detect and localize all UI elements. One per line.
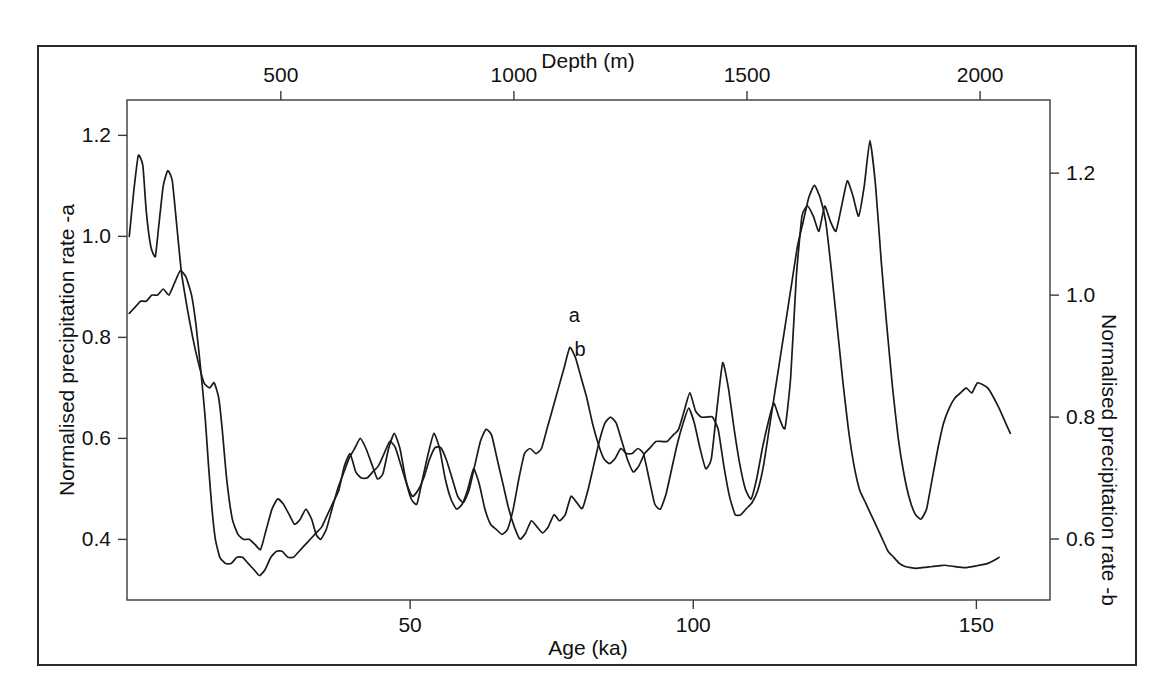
plot-frame: [127, 100, 1050, 600]
curve-b: [129, 185, 999, 575]
curve-a: [129, 140, 1010, 549]
top-tick-label-500: 500: [263, 63, 298, 86]
right-tick-label-1.2: 1.2: [1066, 161, 1095, 184]
figure-panel: Normalised precipitation rate -a Normali…: [0, 0, 1171, 694]
right-tick-label-1.0: 1.0: [1066, 283, 1095, 306]
curve-label-a: a: [569, 304, 581, 326]
left-tick-label-0.6: 0.6: [82, 426, 111, 449]
top-axis-title: Depth (m): [541, 49, 634, 72]
bottom-tick-label-50: 50: [398, 613, 421, 636]
bottom-tick-label-100: 100: [676, 613, 711, 636]
top-tick-label-2000: 2000: [957, 63, 1004, 86]
bottom-axis-title: Age (ka): [548, 636, 627, 659]
right-tick-label-0.8: 0.8: [1066, 405, 1095, 428]
left-tick-label-0.4: 0.4: [82, 527, 112, 550]
curve-annotations: ab: [569, 304, 586, 360]
left-tick-label-1.0: 1.0: [82, 224, 111, 247]
plot-svg: 500100015002000 50100150 0.40.60.81.01.2…: [0, 0, 1171, 694]
left-axis-ticks: 0.40.60.81.01.2: [82, 123, 127, 550]
left-tick-label-1.2: 1.2: [82, 123, 111, 146]
right-tick-label-0.6: 0.6: [1066, 527, 1095, 550]
top-tick-label-1500: 1500: [724, 63, 771, 86]
top-tick-label-1000: 1000: [491, 63, 538, 86]
bottom-axis-ticks: 50100150: [398, 600, 993, 636]
bottom-tick-label-150: 150: [959, 613, 994, 636]
right-axis-ticks: 0.60.81.01.2: [1050, 161, 1095, 550]
curve-label-b: b: [574, 338, 585, 360]
left-tick-label-0.8: 0.8: [82, 325, 111, 348]
data-curves: [129, 140, 1010, 575]
